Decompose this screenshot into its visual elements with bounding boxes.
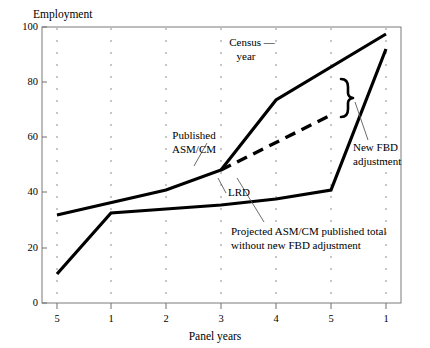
x-tick-label-6: 5: [319, 313, 343, 325]
vertical-gridlines: [57, 28, 386, 302]
x-tick-label-5: 4: [264, 313, 288, 325]
y-axis-ticks: [42, 27, 47, 303]
x-tick-label-4: 3: [209, 313, 233, 325]
x-axis-title: Panel years: [0, 330, 430, 343]
axis-frame: [42, 27, 401, 303]
y-tick-label-40: 40: [14, 186, 38, 198]
y-tick-label-100: 100: [14, 21, 38, 33]
chart-container: Employment 100 80 60 40 20 0 5 1 2 3 4 5…: [0, 0, 430, 348]
y-tick-label-60: 60: [14, 131, 38, 143]
leader-lrd: [218, 178, 226, 193]
y-axis-title: Employment: [33, 8, 92, 21]
brace-icon: [341, 79, 353, 117]
annotation-projected-line2: without new FBD adjustment: [231, 239, 361, 251]
y-tick-label-20: 20: [14, 242, 38, 254]
annotation-projected-line1: Projected ASM/CM published total: [231, 225, 387, 237]
annotation-published-line1: Published: [156, 129, 232, 141]
annotation-lrd: LRD: [228, 186, 250, 198]
y-tick-label-80: 80: [14, 76, 38, 88]
x-axis-ticks: [57, 303, 386, 309]
annotation-census-year-line1: Census —: [212, 36, 292, 48]
x-tick-label-1: 5: [45, 313, 69, 325]
x-tick-label-3: 2: [154, 313, 178, 325]
x-tick-label-2: 1: [99, 313, 123, 325]
annotation-newfbd-line1: New FBD: [353, 141, 398, 153]
x-tick-label-7: 1: [374, 313, 398, 325]
annotation-newfbd-line2: adjustment: [353, 155, 401, 167]
annotation-census-year-line2: year: [212, 50, 280, 62]
y-tick-label-0: 0: [14, 297, 38, 309]
annotation-published-line2: ASM/CM: [156, 143, 232, 155]
